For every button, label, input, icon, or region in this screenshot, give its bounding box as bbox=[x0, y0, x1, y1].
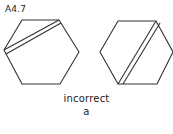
left-hexagon bbox=[4, 20, 79, 84]
caption: incorrect bbox=[0, 93, 173, 104]
sublabel: a bbox=[0, 106, 173, 117]
right-hexagon bbox=[100, 21, 173, 84]
